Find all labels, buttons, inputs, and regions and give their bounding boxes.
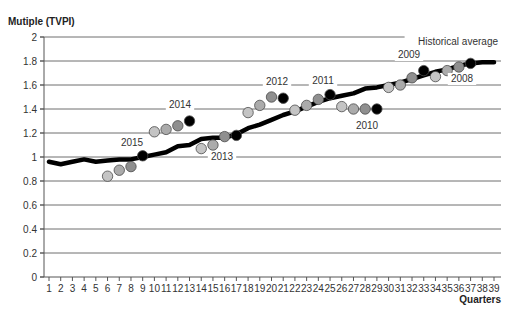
data-point <box>383 82 393 92</box>
annotation-2010: 2010 <box>356 120 379 131</box>
x-tick-label: 11 <box>161 283 172 294</box>
x-tick-label: 36 <box>453 283 465 294</box>
y-tick-label: 1 <box>31 152 37 163</box>
data-point <box>173 121 183 131</box>
x-tick-label: 6 <box>105 283 111 294</box>
x-tick-label: 31 <box>395 283 407 294</box>
data-point <box>290 105 300 115</box>
vintage-2014 <box>149 116 195 137</box>
data-point <box>196 143 206 153</box>
x-tick-label: 33 <box>418 283 430 294</box>
data-point <box>137 151 147 161</box>
x-tick-label: 14 <box>196 283 208 294</box>
x-tick-label: 21 <box>278 283 290 294</box>
vintage-2010 <box>337 101 383 114</box>
annotation-2014: 2014 <box>169 99 192 110</box>
annotation-2012: 2012 <box>266 76 289 87</box>
x-tick-label: 28 <box>360 283 372 294</box>
y-tick-label: 0.2 <box>23 248 37 259</box>
y-tick-label: 0.8 <box>23 176 37 187</box>
annotation-historical-average: Historical average <box>418 36 498 47</box>
data-point <box>149 127 159 137</box>
y-tick-label: 0 <box>31 272 37 283</box>
x-tick-label: 7 <box>116 283 122 294</box>
x-tick-label: 22 <box>289 283 301 294</box>
x-tick-label: 24 <box>313 283 325 294</box>
data-point <box>231 130 241 140</box>
gridlines <box>40 37 501 253</box>
x-tick-label: 25 <box>324 283 336 294</box>
data-point <box>360 104 370 114</box>
y-tick-label: 0.6 <box>23 200 37 211</box>
y-tick-label: 1.6 <box>23 80 37 91</box>
y-tick-label: 0.4 <box>23 224 37 235</box>
x-tick-label: 19 <box>254 283 266 294</box>
x-tick-label: 38 <box>477 283 489 294</box>
y-tick-label: 2 <box>31 32 37 43</box>
data-point <box>278 93 288 103</box>
data-point <box>372 104 382 114</box>
x-tick-label: 39 <box>488 283 500 294</box>
x-axis-title: Quarters <box>459 294 501 305</box>
data-point <box>430 71 440 81</box>
x-tick-label: 5 <box>93 283 99 294</box>
x-tick-label: 2 <box>58 283 64 294</box>
tvpi-chart: 00.20.40.60.811.21.41.61.82 123456789101… <box>0 0 527 318</box>
data-point <box>114 165 124 175</box>
data-point <box>184 116 194 126</box>
data-point <box>313 94 323 104</box>
x-tick-label: 18 <box>243 283 255 294</box>
x-tick-label: 34 <box>430 283 442 294</box>
data-point <box>219 131 229 141</box>
data-point <box>126 161 136 171</box>
x-tick-label: 16 <box>219 283 231 294</box>
annotation-2015: 2015 <box>121 137 144 148</box>
x-tick-label: 37 <box>465 283 477 294</box>
data-point <box>208 140 218 150</box>
data-point <box>325 89 335 99</box>
data-point <box>255 100 265 110</box>
annotation-2008: 2008 <box>451 73 474 84</box>
data-point <box>407 73 417 83</box>
data-point <box>348 104 358 114</box>
data-point <box>243 107 253 117</box>
x-tick-label: 1 <box>46 283 52 294</box>
vintage-2015 <box>102 151 148 182</box>
x-tick-label: 32 <box>406 283 418 294</box>
data-point <box>419 65 429 75</box>
data-point <box>454 62 464 72</box>
x-tick-label: 15 <box>207 283 219 294</box>
x-tick-label: 26 <box>336 283 348 294</box>
x-tick-label: 12 <box>172 283 184 294</box>
x-tick-label: 23 <box>301 283 313 294</box>
y-tick-label: 1.2 <box>23 128 37 139</box>
data-point <box>395 80 405 90</box>
y-tick-label: 1.8 <box>23 56 37 67</box>
x-tick-label: 27 <box>348 283 360 294</box>
data-point <box>161 124 171 134</box>
data-point <box>337 101 347 111</box>
x-tick-label: 8 <box>128 283 134 294</box>
x-tick-label: 20 <box>266 283 278 294</box>
y-tick-label: 1.4 <box>23 104 37 115</box>
data-point <box>102 171 112 181</box>
x-tick-label: 9 <box>140 283 146 294</box>
data-point <box>266 92 276 102</box>
x-axis: 1234567891011121314151617181920212223242… <box>40 277 501 294</box>
data-point <box>465 58 475 68</box>
y-axis: 00.20.40.60.811.21.41.61.82 <box>23 32 44 283</box>
x-tick-label: 29 <box>371 283 383 294</box>
x-tick-label: 35 <box>442 283 454 294</box>
x-tick-label: 4 <box>81 283 87 294</box>
x-tick-label: 3 <box>70 283 76 294</box>
x-tick-label: 30 <box>383 283 395 294</box>
x-tick-label: 13 <box>184 283 196 294</box>
annotation-2013: 2013 <box>211 151 234 162</box>
x-tick-label: 17 <box>231 283 243 294</box>
annotation-2011: 2011 <box>312 75 334 86</box>
y-axis-title: Mutiple (TVPI) <box>8 16 75 27</box>
x-tick-label: 10 <box>149 283 161 294</box>
data-point <box>301 100 311 110</box>
annotation-2009: 2009 <box>398 49 421 60</box>
